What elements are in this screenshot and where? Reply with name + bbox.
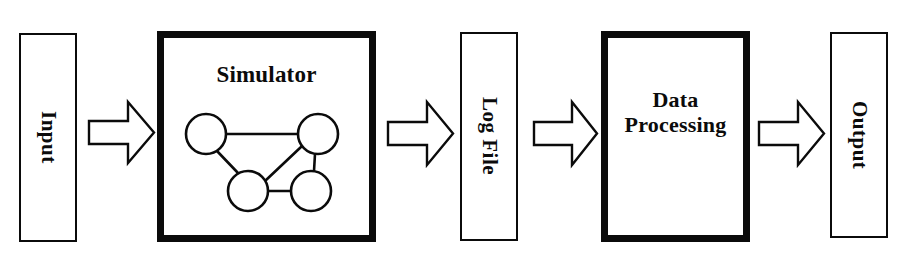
graph-node-n3 — [228, 171, 268, 211]
arrow-input-to-simulator — [87, 99, 156, 166]
stage-label-output: Output — [832, 34, 886, 236]
stage-label-data-processing-line1: Data — [652, 87, 698, 112]
stage-box-output[interactable]: Output — [830, 32, 888, 238]
stage-box-input[interactable]: Input — [19, 33, 77, 242]
block-flow-diagram: Input Simulator Log File — [0, 0, 909, 258]
edge-n1-n3 — [217, 151, 238, 173]
stage-box-log-file[interactable]: Log File — [460, 32, 518, 241]
stage-label-input: Input — [21, 35, 75, 240]
graph-node-n4 — [291, 171, 331, 211]
arrow-right-icon — [759, 102, 824, 165]
graph-node-n1 — [186, 114, 226, 154]
network-graph — [178, 106, 340, 214]
arrow-right-icon — [89, 102, 154, 163]
stage-label-data-processing-line2: Processing — [625, 112, 727, 137]
stage-label-log-file: Log File — [462, 34, 516, 239]
arrow-log-file-to-data-processing — [532, 99, 599, 168]
stage-label-data-processing: Data Processing — [608, 88, 743, 137]
stage-box-data-processing[interactable]: Data Processing — [601, 31, 750, 242]
arrow-simulator-to-log-file — [386, 99, 455, 168]
stage-label-simulator: Simulator — [164, 62, 369, 88]
arrow-right-icon — [534, 102, 597, 165]
edge-n2-n3 — [265, 147, 301, 181]
graph-node-n2 — [298, 114, 338, 154]
arrow-data-processing-to-output — [757, 99, 826, 168]
arrow-right-icon — [388, 102, 453, 165]
edge-n2-n4 — [314, 154, 315, 171]
